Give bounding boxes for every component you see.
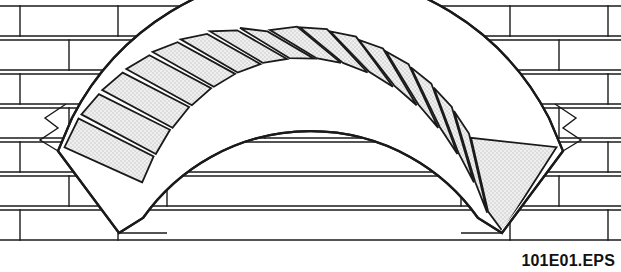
figure-caption: 101E01.EPS xyxy=(521,252,615,270)
figure-root: 101E01.EPS xyxy=(0,0,621,272)
masonry-arch-diagram xyxy=(0,0,621,272)
